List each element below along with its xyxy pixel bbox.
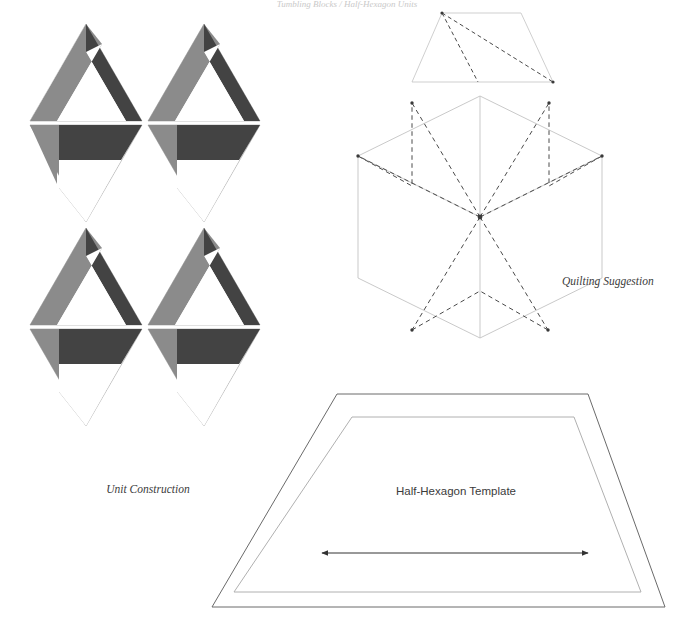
detail-vertex-dot (440, 11, 443, 14)
hexagon-center-dot (478, 215, 483, 220)
half-hexagon-detail-outline (412, 13, 553, 82)
detail-vertex-dot (551, 80, 554, 83)
half-hexagon-quilting-detail (412, 11, 555, 83)
quilt-pattern-illustration: Tumbling Blocks / Half-Hexagon Units (0, 0, 694, 639)
unit-construction-figure: Unit Construction (0, 0, 260, 495)
hexagon-vertex-dot (410, 101, 413, 104)
hexagon-vertex-dot (600, 154, 603, 157)
quilting-suggestion-figure: Quilting Suggestion (356, 96, 654, 338)
hexagon-vertex-dot (410, 328, 413, 331)
caption-unit-construction: Unit Construction (106, 483, 190, 495)
hexagon-vertex-dot (547, 101, 550, 104)
half-hexagon-template-figure: Half-Hexagon Template (212, 394, 665, 607)
caption-quilting-suggestion: Quilting Suggestion (562, 275, 654, 288)
caption-half-hexagon-template: Half-Hexagon Template (396, 485, 516, 497)
hexagon-vertex-dot (546, 328, 549, 331)
hexagon-vertex-dot (356, 154, 359, 157)
running-head: Tumbling Blocks / Half-Hexagon Units (277, 0, 418, 9)
figure-page: Tumbling Blocks / Half-Hexagon Units (0, 0, 694, 639)
template-cutting-line (212, 394, 665, 607)
